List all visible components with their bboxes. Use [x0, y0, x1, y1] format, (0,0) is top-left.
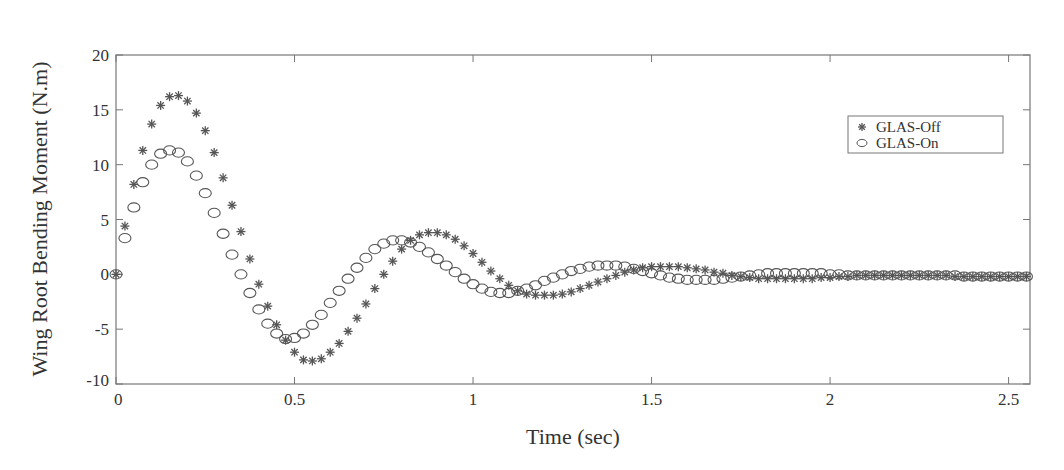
- data-point-glas-off: [112, 270, 121, 279]
- data-point-glas-off: [388, 257, 397, 266]
- data-point-glas-off: [228, 201, 237, 210]
- data-point-glas-on: [181, 157, 193, 166]
- data-point-glas-off: [558, 290, 567, 299]
- data-point-glas-on: [226, 250, 238, 259]
- data-point-glas-off: [611, 271, 620, 280]
- data-point-glas-off: [147, 120, 156, 129]
- data-point-glas-off: [344, 327, 353, 336]
- legend-label-glas-off: GLAS-Off: [876, 119, 941, 135]
- data-point-glas-off: [183, 97, 192, 106]
- plot-area: 00.511.522.5 -10-505101520: [86, 46, 1032, 409]
- data-point-glas-on: [190, 171, 202, 180]
- x-axis-ticks: 00.511.522.5: [114, 55, 1019, 409]
- data-point-glas-off: [156, 101, 165, 110]
- y-tick-label: 15: [92, 101, 109, 120]
- data-point-glas-off: [576, 284, 585, 293]
- x-tick-label: 1.5: [641, 390, 662, 409]
- data-point-glas-on: [128, 203, 140, 212]
- data-point-glas-off: [379, 270, 388, 279]
- data-point-glas-off: [120, 222, 129, 231]
- data-point-glas-on: [315, 310, 327, 319]
- data-point-glas-off: [531, 291, 540, 300]
- data-point-glas-off: [174, 91, 183, 100]
- data-point-glas-on: [333, 286, 345, 295]
- data-point-glas-on: [360, 253, 372, 262]
- data-point-glas-off: [469, 249, 478, 258]
- data-point-glas-off: [352, 314, 361, 323]
- data-point-glas-off: [254, 280, 263, 289]
- data-point-glas-on: [324, 298, 336, 307]
- data-point-glas-off: [415, 230, 424, 239]
- y-tick-label: 20: [92, 46, 109, 65]
- data-point-glas-off: [540, 291, 549, 300]
- data-point-glas-off: [245, 254, 254, 263]
- data-point-glas-off: [361, 299, 370, 308]
- data-point-glas-off: [451, 235, 460, 244]
- data-point-glas-off: [683, 263, 692, 272]
- data-point-glas-off: [701, 265, 710, 274]
- data-point-glas-on: [289, 333, 301, 342]
- data-point-glas-off: [477, 258, 486, 267]
- data-point-glas-off: [692, 264, 701, 273]
- data-point-glas-off: [219, 173, 228, 182]
- data-point-glas-off: [665, 262, 674, 271]
- data-point-glas-off: [460, 241, 469, 250]
- data-point-glas-on: [217, 229, 229, 238]
- data-point-glas-off: [290, 348, 299, 357]
- data-point-glas-on: [342, 274, 354, 283]
- legend: GLAS-Off GLAS-On: [848, 116, 1003, 153]
- data-point-glas-off: [585, 281, 594, 290]
- x-axis-title: Time (sec): [526, 424, 620, 449]
- data-point-glas-on: [244, 288, 256, 297]
- data-point-glas-on: [467, 280, 479, 289]
- y-tick-label: 10: [92, 156, 109, 175]
- x-tick-label: 0: [114, 390, 123, 409]
- data-point-glas-off: [656, 262, 665, 271]
- data-point-glas-off: [192, 109, 201, 118]
- data-point-glas-off: [210, 148, 219, 157]
- data-point-glas-on: [208, 208, 220, 217]
- data-point-glas-off: [326, 348, 335, 357]
- y-tick-label: 5: [101, 211, 110, 230]
- data-point-glas-off: [433, 228, 442, 237]
- data-point-glas-on: [262, 319, 274, 328]
- data-point-glas-on: [306, 320, 318, 329]
- data-point-glas-off: [236, 227, 245, 236]
- axes-box: [116, 55, 1030, 384]
- data-point-glas-off: [674, 262, 683, 271]
- y-tick-label: 0: [101, 265, 110, 284]
- y-tick-label: -10: [86, 371, 109, 390]
- x-tick-label: 2.5: [998, 390, 1019, 409]
- chart: 00.511.522.5 -10-505101520 Time (sec) Wi…: [0, 0, 1064, 470]
- data-point-glas-on: [253, 305, 265, 314]
- data-point-glas-off: [370, 284, 379, 293]
- series-glas-on: [110, 146, 1032, 344]
- data-point-glas-on: [137, 178, 149, 187]
- data-point-glas-on: [146, 160, 158, 169]
- x-tick-label: 0.5: [284, 390, 305, 409]
- data-point-glas-off: [549, 291, 558, 300]
- data-point-glas-off: [486, 267, 495, 276]
- data-point-glas-off: [165, 92, 174, 101]
- x-tick-label: 2: [826, 390, 835, 409]
- data-point-glas-off: [593, 278, 602, 287]
- data-point-glas-on: [199, 189, 211, 198]
- data-point-glas-on: [351, 263, 363, 272]
- data-point-glas-off: [397, 245, 406, 254]
- legend-label-glas-on: GLAS-On: [876, 135, 939, 151]
- data-point-glas-off: [138, 146, 147, 155]
- data-point-glas-off: [567, 287, 576, 296]
- data-point-glas-off: [317, 354, 326, 363]
- y-tick-label: -5: [95, 320, 109, 339]
- data-point-glas-off: [201, 126, 210, 135]
- x-tick-label: 1: [469, 390, 478, 409]
- y-axis-ticks: -10-505101520: [86, 46, 1030, 390]
- data-point-glas-off: [299, 355, 308, 364]
- data-point-glas-off: [442, 230, 451, 239]
- data-point-glas-off: [424, 228, 433, 237]
- data-point-glas-on: [119, 234, 131, 243]
- data-point-glas-off: [308, 356, 317, 365]
- asterisk-marker-icon: [858, 123, 866, 131]
- data-point-glas-on: [235, 270, 247, 279]
- data-point-glas-off: [602, 274, 611, 283]
